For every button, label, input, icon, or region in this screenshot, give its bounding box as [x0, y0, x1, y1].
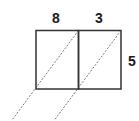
left-width-label: 8: [52, 10, 60, 26]
rectangle-group: [36, 31, 121, 90]
right-diagonal-line: [55, 31, 122, 121]
diagram-canvas: 8 3 5: [0, 0, 139, 120]
left-diagonal-line: [12, 31, 79, 121]
dashed-diagonals: [12, 31, 121, 121]
height-label: 5: [128, 53, 136, 69]
right-width-label: 3: [95, 10, 103, 26]
